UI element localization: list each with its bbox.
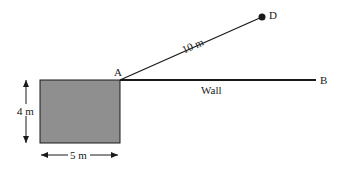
label-ad-length: 10 m	[180, 35, 206, 55]
diagram-canvas: A B D 10 m Wall 4 m 4 m 5 m	[0, 0, 348, 171]
label-b: B	[320, 74, 327, 86]
label-wall: Wall	[201, 84, 222, 96]
label-d: D	[269, 9, 277, 21]
label-height-fg: 4 m	[17, 105, 34, 117]
point-d-dot	[259, 14, 266, 21]
label-a: A	[114, 66, 122, 78]
label-width: 5 m	[70, 149, 87, 161]
shaded-square	[40, 80, 120, 143]
